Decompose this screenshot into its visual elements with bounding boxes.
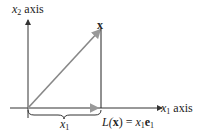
vector-label: x [97,19,103,31]
vector-x [28,30,100,108]
proj-e-sub: 1 [150,121,154,130]
x1-axis-label: x1 axis [161,102,193,116]
brace-label: x1 [60,118,69,132]
x2-axis-text: axis [24,2,43,16]
x2-sub: 2 [17,8,21,17]
projection-label: L(x) = x1e1 [102,116,154,130]
x1-axis-text: axis [173,101,192,115]
proj-post: ) = [119,115,136,129]
proj-pre: L( [102,115,113,129]
x1-sub: 1 [166,107,170,116]
brace-sub: 1 [65,123,69,132]
x2-axis-label: x2 axis [12,3,44,17]
